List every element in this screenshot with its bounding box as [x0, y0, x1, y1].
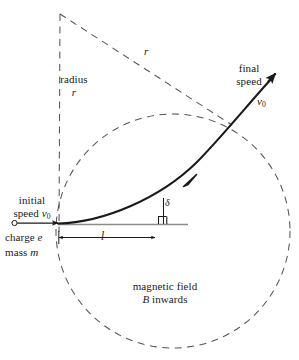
- radius-line-slant-dashed: [60, 14, 232, 125]
- charge-label-prefix: charge: [5, 231, 35, 243]
- initial-speed-subscript: 0: [47, 212, 51, 221]
- physics-diagram-figure: radius r r final speed v0 initial speed …: [0, 0, 299, 360]
- mass-symbol: m: [30, 246, 38, 258]
- radius-label-line1: radius: [60, 73, 87, 85]
- source-point-marker: [12, 220, 17, 225]
- final-speed-subscript: 0: [262, 100, 266, 109]
- charge-label: charge e: [5, 231, 43, 244]
- right-angle-marker: [159, 217, 167, 225]
- radius-label-line2: r: [72, 86, 76, 98]
- final-speed-line1: final: [239, 62, 260, 74]
- magnetic-field-text: inwards: [149, 293, 187, 305]
- initial-speed-label: initial speed v0: [4, 194, 60, 221]
- mass-label: mass m: [5, 246, 38, 259]
- delta-angle-label: δ: [165, 197, 170, 210]
- radius-label-vertical: radius r: [48, 73, 100, 98]
- length-label: l: [101, 230, 104, 243]
- charge-symbol: e: [38, 231, 43, 243]
- magnetic-field-label: magnetic field B inwards: [110, 280, 220, 305]
- final-speed-label: final speed: [218, 62, 280, 87]
- magnetic-field-line1: magnetic field: [133, 280, 198, 292]
- final-speed-symbol: v0: [257, 95, 266, 110]
- magnetic-field-line2: B inwards: [142, 293, 187, 305]
- initial-speed-line1: initial: [19, 194, 45, 206]
- mass-label-prefix: mass: [5, 246, 27, 258]
- initial-speed-line2: speed v0: [13, 207, 50, 219]
- orbit-circle-dashed: [56, 114, 290, 348]
- final-speed-line2: speed: [236, 75, 262, 87]
- diagram-canvas: [0, 0, 299, 360]
- trajectory-direction-arrowhead: [184, 175, 197, 187]
- radius-label-slant: r: [144, 45, 148, 58]
